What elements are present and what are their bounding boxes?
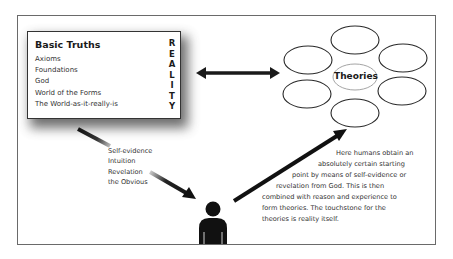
theory-ellipse xyxy=(378,77,426,105)
method-item: the Obvious xyxy=(108,177,152,187)
description-line: point by means of self-evidence or xyxy=(262,170,438,181)
theory-ellipse xyxy=(284,46,332,74)
theory-ellipse xyxy=(331,26,379,54)
description-line: Here humans obtain an xyxy=(262,148,438,159)
description-line: absolutely certain starting xyxy=(262,159,438,170)
description-line: combined with reason and experience to xyxy=(262,192,438,203)
double-arrow-icon xyxy=(196,67,280,79)
theory-ellipse xyxy=(331,99,379,127)
description-line: theories is reality itself. xyxy=(262,214,438,225)
method-item: Intuition xyxy=(108,156,152,166)
method-item: Self-evidence xyxy=(108,146,152,156)
methods-list: Self-evidence Intuition Revelation the O… xyxy=(108,146,152,187)
theory-ellipse xyxy=(379,44,427,72)
person-icon xyxy=(199,202,227,245)
description-text: Here humans obtain an absolutely certain… xyxy=(262,148,438,225)
theory-ellipse xyxy=(283,80,331,108)
description-line: revelation from God. This is then xyxy=(262,181,438,192)
description-line: form theories. The touchstone for the xyxy=(262,203,438,214)
method-item: Revelation xyxy=(108,167,152,177)
theories-label: Theories xyxy=(331,71,381,81)
